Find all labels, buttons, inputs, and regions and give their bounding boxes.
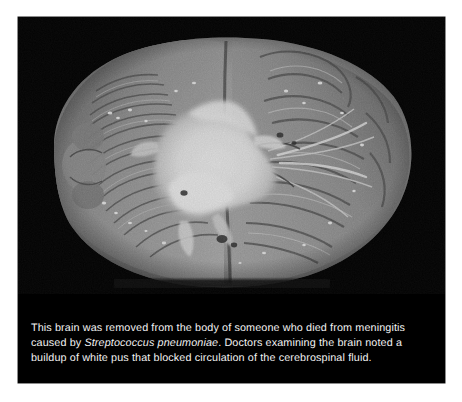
brain-photograph	[18, 17, 445, 294]
brain-photo-graphic	[18, 17, 445, 294]
figure-panel: This brain was removed from the body of …	[18, 17, 445, 383]
figure-caption-text: This brain was removed from the body of …	[31, 321, 435, 367]
figure-caption-block: This brain was removed from the body of …	[18, 294, 445, 383]
page-background: This brain was removed from the body of …	[0, 0, 462, 402]
caption-species-name: Streptococcus pneumoniae	[84, 337, 218, 349]
